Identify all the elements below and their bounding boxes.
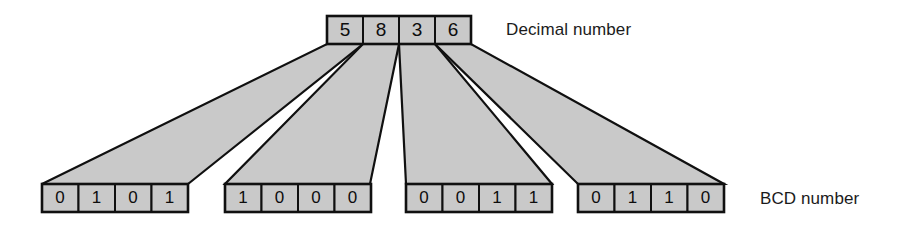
- decimal-digit: 8: [376, 19, 387, 40]
- bcd-bit: 0: [128, 188, 137, 207]
- bcd-group-2: 0 0 1 1: [406, 184, 552, 212]
- bcd-bit: 0: [591, 188, 600, 207]
- bcd-bit: 1: [92, 188, 101, 207]
- funnel-connectors: [42, 44, 724, 184]
- bcd-group-3: 0 1 1 0: [578, 184, 724, 212]
- bcd-group-1: 1 0 0 0: [225, 184, 371, 212]
- bcd-bit: 0: [456, 188, 465, 207]
- bcd-bit: 0: [55, 188, 64, 207]
- decimal-digit: 6: [448, 19, 459, 40]
- decimal-row: 5 8 3 6: [327, 16, 471, 44]
- bcd-bit: 1: [165, 188, 174, 207]
- bcd-bit: 1: [628, 188, 637, 207]
- bcd-group-0: 0 1 0 1: [42, 184, 188, 212]
- decimal-digit: 5: [340, 19, 351, 40]
- bcd-bit: 0: [348, 188, 357, 207]
- bcd-bit: 1: [529, 188, 538, 207]
- bcd-bit: 1: [664, 188, 673, 207]
- bcd-number-label: BCD number: [760, 189, 859, 209]
- decimal-digit: 3: [412, 19, 423, 40]
- bcd-bit: 0: [275, 188, 284, 207]
- bcd-bit: 1: [238, 188, 247, 207]
- bcd-bit: 1: [492, 188, 501, 207]
- bcd-bit: 0: [311, 188, 320, 207]
- bcd-bit: 0: [419, 188, 428, 207]
- decimal-number-label: Decimal number: [506, 20, 631, 40]
- bcd-conversion-diagram: 5 8 3 6 0 1 0 1 1 0 0 0: [0, 0, 906, 237]
- bcd-bit: 0: [701, 188, 710, 207]
